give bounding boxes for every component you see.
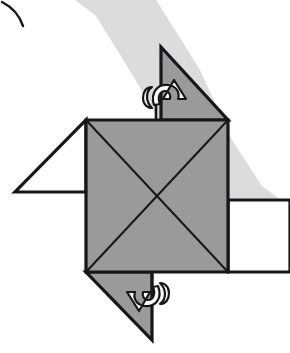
flap-right <box>228 200 290 272</box>
origami-diagram <box>0 0 290 353</box>
origami-illustration <box>0 0 290 353</box>
